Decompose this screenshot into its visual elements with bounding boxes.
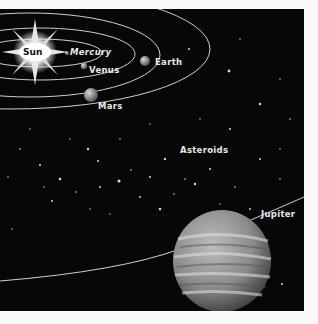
asteroids-label: Asteroids (180, 145, 228, 155)
jupiter-label: Jupiter (261, 209, 295, 219)
mercury-planet (65, 51, 69, 55)
mars-planet (84, 88, 98, 102)
mars-label: Mars (98, 101, 123, 111)
earth-planet (140, 56, 150, 66)
sun-label: Sun (23, 47, 42, 57)
solar-system-illustration: Sun Mercury Venus Earth Mars Asteroids J… (0, 9, 304, 311)
venus-planet (81, 63, 87, 69)
space-scene (0, 9, 304, 311)
mercury-label: Mercury (70, 47, 111, 57)
jupiter-planet (173, 210, 271, 311)
venus-label: Venus (89, 65, 120, 75)
earth-label: Earth (155, 57, 182, 67)
